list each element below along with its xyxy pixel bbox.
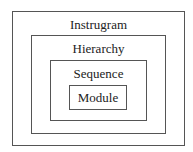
hierarchy-label: Hierarchy — [32, 41, 165, 56]
module-label: Module — [70, 90, 126, 105]
module-box: Module — [69, 85, 127, 110]
instrugram-label: Instrugram — [13, 17, 184, 32]
sequence-label: Sequence — [51, 66, 146, 81]
